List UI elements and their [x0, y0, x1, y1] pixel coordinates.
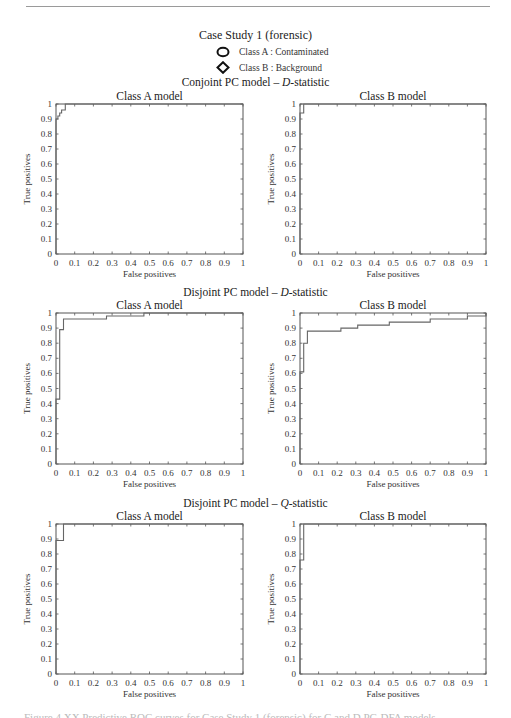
y-tick-label: 0.2: [41, 219, 52, 229]
plot-frame: [300, 524, 486, 674]
x-tick-label: 0.5: [144, 468, 156, 478]
x-tick-label: 0.8: [200, 468, 212, 478]
y-tick-label: 0.5: [41, 174, 53, 184]
x-tick-label: 0.7: [181, 678, 193, 688]
y-tick-label: 0.3: [285, 204, 297, 214]
x-tick-label: 0.4: [125, 258, 137, 268]
y-tick-label: 0.7: [285, 144, 297, 154]
y-tick-label: 0.3: [41, 414, 53, 424]
roc-chart-1: Class A model00.10.20.30.40.50.60.70.80.…: [22, 90, 245, 279]
x-tick-label: 0.1: [313, 678, 324, 688]
y-axis-label: True positives: [266, 363, 276, 414]
x-tick-label: 0.1: [69, 258, 80, 268]
x-tick-label: 0.2: [332, 678, 343, 688]
x-tick-label: 0.6: [163, 468, 175, 478]
x-tick-label: 0.2: [332, 258, 343, 268]
x-tick-label: 1: [484, 678, 489, 688]
x-tick-label: 0.4: [125, 678, 137, 688]
x-tick-label: 0.6: [163, 258, 175, 268]
y-tick-label: 0.7: [285, 353, 297, 363]
x-tick-label: 0.8: [200, 678, 212, 688]
x-tick-label: 0.3: [106, 468, 118, 478]
x-tick-label: 0.4: [125, 468, 137, 478]
y-tick-label: 0.5: [41, 594, 53, 604]
y-tick-label: 0.8: [285, 549, 297, 559]
x-tick-label: 0: [54, 468, 59, 478]
x-tick-label: 0.1: [69, 468, 80, 478]
x-axis-label: False positives: [366, 479, 420, 489]
x-tick-label: 0.7: [425, 468, 437, 478]
y-tick-label: 0.2: [41, 429, 52, 439]
x-tick-label: 1: [484, 468, 489, 478]
x-tick-label: 0.3: [350, 258, 362, 268]
x-tick-label: 1: [484, 258, 489, 268]
y-tick-label: 0.9: [41, 534, 53, 544]
x-tick-label: 0.1: [313, 258, 324, 268]
x-tick-label: 0.4: [369, 678, 381, 688]
roc-chart-6: Class B model00.10.20.30.40.50.60.70.80.…: [266, 510, 488, 699]
y-axis-label: True positives: [266, 573, 276, 624]
x-tick-label: 0: [298, 258, 303, 268]
x-tick-label: 0: [298, 468, 303, 478]
x-tick-label: 0.3: [106, 678, 118, 688]
chart-title: Class A model: [116, 90, 182, 102]
y-tick-label: 0.5: [285, 384, 297, 394]
y-tick-label: 0.8: [41, 338, 53, 348]
y-tick-label: 1: [48, 99, 53, 109]
plot-frame: [300, 104, 486, 254]
y-tick-label: 0.8: [285, 338, 297, 348]
x-tick-label: 1: [241, 258, 246, 268]
y-tick-label: 0.8: [41, 129, 53, 139]
x-tick-label: 0.7: [181, 468, 193, 478]
x-tick-label: 0.2: [332, 468, 343, 478]
y-tick-label: 0.9: [41, 323, 53, 333]
x-axis-label: False positives: [123, 689, 177, 699]
plot-frame: [56, 313, 243, 464]
x-tick-label: 0: [298, 678, 303, 688]
x-axis-label: False positives: [123, 479, 177, 489]
x-tick-label: 0.5: [144, 258, 156, 268]
y-tick-label: 0.4: [285, 609, 297, 619]
y-tick-label: 0.3: [41, 624, 53, 634]
y-tick-label: 0.4: [41, 609, 53, 619]
plot-frame: [56, 524, 243, 674]
roc-chart-2: Class B model00.10.20.30.40.50.60.70.80.…: [266, 90, 488, 279]
y-tick-label: 0.1: [41, 234, 52, 244]
roc-curve: [300, 524, 486, 674]
x-tick-label: 1: [241, 678, 246, 688]
y-tick-label: 0.6: [285, 579, 297, 589]
y-tick-label: 0: [48, 459, 53, 469]
x-tick-label: 0.2: [88, 258, 99, 268]
y-tick-label: 0.6: [285, 368, 297, 378]
x-tick-label: 0.5: [387, 258, 399, 268]
roc-curve: [56, 524, 243, 674]
chart-title: Class B model: [359, 510, 426, 522]
x-tick-label: 0.9: [462, 468, 474, 478]
x-tick-label: 0.8: [443, 468, 455, 478]
y-tick-label: 0: [292, 249, 297, 259]
x-tick-label: 0.6: [406, 258, 418, 268]
x-tick-label: 0.8: [443, 258, 455, 268]
y-tick-label: 0.6: [41, 368, 53, 378]
x-tick-label: 0.3: [106, 258, 118, 268]
y-tick-label: 0.9: [285, 534, 297, 544]
roc-chart-5: Class A model00.10.20.30.40.50.60.70.80.…: [22, 510, 245, 699]
y-tick-label: 0.5: [41, 384, 53, 394]
x-tick-label: 0.5: [387, 678, 399, 688]
roc-charts: Class A model00.10.20.30.40.50.60.70.80.…: [0, 0, 511, 718]
y-axis-label: True positives: [22, 573, 32, 624]
chart-title: Class A model: [116, 510, 182, 522]
y-tick-label: 0.5: [285, 594, 297, 604]
y-axis-label: True positives: [22, 363, 32, 414]
x-tick-label: 0.3: [350, 678, 362, 688]
x-tick-label: 0.1: [69, 678, 80, 688]
y-tick-label: 0.8: [285, 129, 297, 139]
chart-title: Class B model: [359, 299, 426, 311]
y-tick-label: 1: [292, 519, 297, 529]
x-tick-label: 0.5: [387, 468, 399, 478]
y-tick-label: 0.4: [285, 399, 297, 409]
chart-title: Class B model: [359, 90, 426, 102]
roc-curve: [300, 313, 486, 464]
x-tick-label: 0.7: [181, 258, 193, 268]
y-tick-label: 0.1: [285, 234, 296, 244]
